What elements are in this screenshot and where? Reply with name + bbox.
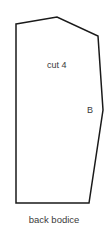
pattern-canvas [0, 0, 108, 239]
pattern-caption: back bodice [0, 215, 108, 225]
cut-instruction-label: cut 4 [47, 61, 67, 70]
notch-marker-label: B [87, 106, 93, 115]
